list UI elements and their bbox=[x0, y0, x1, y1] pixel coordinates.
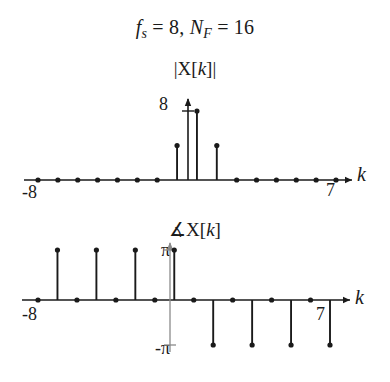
stem-marker bbox=[74, 297, 79, 302]
stem-marker bbox=[75, 177, 80, 182]
magnitude-plot-group bbox=[24, 98, 352, 183]
stem-marker bbox=[254, 177, 259, 182]
x-axis-arrowhead bbox=[343, 297, 350, 303]
stem-marker bbox=[314, 177, 319, 182]
stem-marker bbox=[211, 342, 216, 347]
figure-container: fs = 8, NF = 16 |X[k]| ∡X[k] 8 -8 7 k π … bbox=[0, 0, 390, 382]
x-axis-arrowhead bbox=[345, 177, 352, 183]
stem-marker bbox=[35, 177, 40, 182]
stem-marker bbox=[234, 177, 239, 182]
stem-marker bbox=[55, 247, 60, 252]
y-axis-arrowhead bbox=[185, 98, 191, 106]
stem-marker bbox=[333, 177, 338, 182]
stem-marker bbox=[133, 247, 138, 252]
stem-marker bbox=[294, 177, 299, 182]
stem-plots-svg bbox=[0, 0, 390, 382]
stem-marker bbox=[135, 177, 140, 182]
stem-marker bbox=[155, 177, 160, 182]
stem-marker bbox=[191, 297, 196, 302]
phase-plot-group bbox=[22, 242, 350, 352]
stem-marker bbox=[230, 297, 235, 302]
stem-marker bbox=[269, 297, 274, 302]
stem-marker bbox=[214, 143, 219, 148]
stem-marker bbox=[327, 342, 332, 347]
stem-marker bbox=[194, 108, 199, 113]
stem-marker bbox=[95, 177, 100, 182]
stem-marker bbox=[288, 342, 293, 347]
stem-marker bbox=[35, 297, 40, 302]
stem-marker bbox=[152, 297, 157, 302]
stem-marker bbox=[274, 177, 279, 182]
stem-marker bbox=[250, 342, 255, 347]
stem-marker bbox=[308, 297, 313, 302]
stem-marker bbox=[113, 297, 118, 302]
stem-marker bbox=[115, 177, 120, 182]
stem-marker bbox=[55, 177, 60, 182]
stem-marker bbox=[94, 247, 99, 252]
stem-marker bbox=[172, 247, 177, 252]
stem-marker bbox=[174, 143, 179, 148]
